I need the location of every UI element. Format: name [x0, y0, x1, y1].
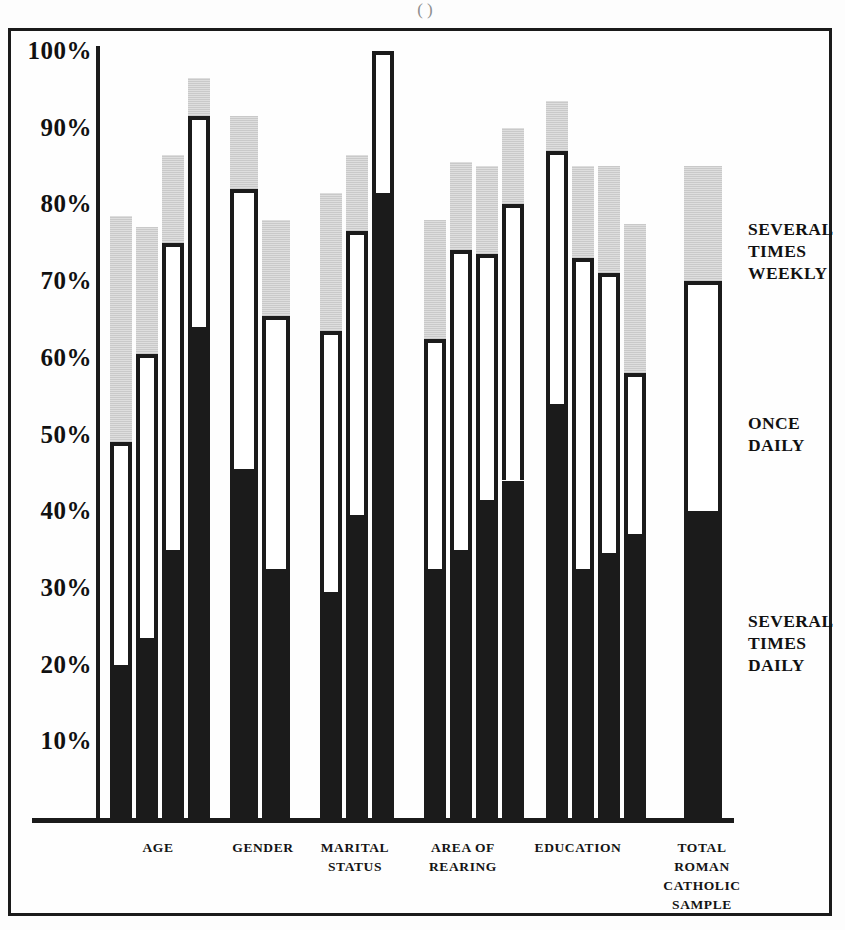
- bar-segment-once-daily: [546, 151, 568, 404]
- y-tick-label: 80%: [6, 191, 92, 216]
- legend-item-several-times-weekly: SEVERALTIMESWEEKLY: [748, 218, 833, 284]
- bar-segment-several-times-weekly: [546, 101, 568, 151]
- group-label-line: EDUCATION: [518, 838, 638, 857]
- y-tick-label: 60%: [6, 345, 92, 370]
- y-tick-label: 30%: [6, 575, 92, 600]
- bar-segment-several-times-weekly: [424, 220, 446, 339]
- bar-segment-several-times-weekly: [230, 116, 258, 189]
- y-tick-label: 70%: [6, 268, 92, 293]
- legend-item-several-times-daily: SEVERALTIMESDAILY: [748, 610, 833, 676]
- y-tick-label: 100%: [6, 38, 92, 63]
- bar-segment-several-times-weekly: [502, 128, 524, 205]
- y-tick-label: 90%: [6, 115, 92, 140]
- bar-segment-once-daily: [188, 116, 210, 327]
- bar-segment-several-times-weekly: [188, 78, 210, 116]
- bar-segment-several-times-daily: [110, 665, 132, 818]
- x-axis-line: [32, 818, 734, 823]
- legend-label-line: SEVERAL: [748, 610, 833, 632]
- stacked-bar: [110, 216, 132, 818]
- legend-label-line: DAILY: [748, 654, 833, 676]
- group-label-line: AREA OF: [408, 838, 518, 857]
- bar-segment-several-times-daily: [188, 327, 210, 818]
- bar-segment-once-daily: [110, 442, 132, 664]
- bar-segment-several-times-weekly: [346, 155, 368, 232]
- group-label-line: ROMAN: [652, 857, 752, 876]
- bar-segment-several-times-weekly: [598, 166, 620, 273]
- group-label-line: REARING: [408, 857, 518, 876]
- bar-segment-several-times-daily: [262, 569, 290, 818]
- stacked-bar: [546, 101, 568, 818]
- legend-label-line: WEEKLY: [748, 262, 833, 284]
- bar-segment-several-times-daily: [546, 404, 568, 818]
- bar-segment-several-times-daily: [136, 638, 158, 818]
- stacked-bar: [136, 227, 158, 818]
- bar-segment-several-times-weekly: [162, 155, 184, 243]
- bar-segment-once-daily: [230, 189, 258, 469]
- bar-segment-once-daily: [624, 373, 646, 534]
- y-tick-label: 20%: [6, 652, 92, 677]
- bar-segment-once-daily: [346, 231, 368, 515]
- stacked-bar: [450, 162, 472, 818]
- group-label-line: TOTAL: [652, 838, 752, 857]
- group-label-education: EDUCATION: [518, 838, 638, 857]
- bar-segment-several-times-daily: [684, 511, 722, 818]
- bar-segment-once-daily: [450, 250, 472, 549]
- bar-segment-several-times-weekly: [320, 193, 342, 331]
- bar-segment-several-times-daily: [624, 534, 646, 818]
- bar-segment-once-daily: [136, 354, 158, 638]
- y-tick-label: 10%: [6, 728, 92, 753]
- bar-segment-once-daily: [598, 273, 620, 553]
- stacked-bar: [502, 128, 524, 818]
- bar-segment-several-times-daily: [450, 550, 472, 818]
- stacked-bar: [262, 220, 290, 818]
- legend-item-once-daily: ONCEDAILY: [748, 412, 805, 456]
- stacked-bar: [424, 220, 446, 818]
- group-label-line: MARITAL: [300, 838, 410, 857]
- legend-label-line: SEVERAL: [748, 218, 833, 240]
- stacked-bar: [320, 193, 342, 818]
- group-label-age: AGE: [108, 838, 208, 857]
- group-label-total-roman-catholic-sample: TOTALROMANCATHOLICSAMPLE: [652, 838, 752, 914]
- chart-page: ( ) 100%90%80%70%60%50%40%30%20%10% AGEG…: [0, 0, 845, 930]
- stacked-bar: [476, 166, 498, 818]
- group-label-line: SAMPLE: [652, 895, 752, 914]
- bar-segment-several-times-weekly: [572, 166, 594, 258]
- bar-segment-several-times-daily: [572, 569, 594, 818]
- legend-label-line: TIMES: [748, 632, 833, 654]
- bar-segment-once-daily: [162, 243, 184, 550]
- bar-segment-several-times-weekly: [684, 166, 722, 281]
- group-label-line: STATUS: [300, 857, 410, 876]
- y-axis-tick-labels: 100%90%80%70%60%50%40%30%20%10%: [0, 0, 92, 930]
- stacked-bar: [188, 78, 210, 818]
- stacked-bar: [572, 166, 594, 818]
- stacked-bar: [598, 166, 620, 818]
- bar-segment-several-times-weekly: [136, 227, 158, 354]
- bar-segment-several-times-daily: [502, 481, 524, 818]
- bar-segment-once-daily: [262, 316, 290, 569]
- group-label-line: CATHOLIC: [652, 876, 752, 895]
- stacked-bar: [346, 155, 368, 818]
- bar-segment-several-times-daily: [230, 469, 258, 818]
- bar-segment-once-daily: [502, 204, 524, 480]
- bar-segment-several-times-daily: [598, 553, 620, 818]
- bar-segment-once-daily: [372, 51, 394, 193]
- bar-segment-several-times-daily: [424, 569, 446, 818]
- bar-segment-once-daily: [684, 281, 722, 511]
- legend-label-line: DAILY: [748, 434, 805, 456]
- y-tick-label: 50%: [6, 422, 92, 447]
- bar-segment-several-times-daily: [162, 550, 184, 818]
- stacked-bar: [230, 116, 258, 818]
- legend-label-line: ONCE: [748, 412, 805, 434]
- y-axis-line: [96, 46, 100, 818]
- stacked-bar: [624, 224, 646, 818]
- bar-segment-several-times-daily: [372, 193, 394, 818]
- bar-segment-several-times-daily: [476, 500, 498, 818]
- stacked-bar: [372, 51, 394, 818]
- bar-segment-several-times-daily: [346, 515, 368, 818]
- bar-segment-once-daily: [320, 331, 342, 592]
- y-tick-label: 40%: [6, 498, 92, 523]
- stacked-bar: [162, 155, 184, 818]
- bar-segment-once-daily: [424, 339, 446, 569]
- bar-segment-several-times-weekly: [262, 220, 290, 316]
- bar-segment-once-daily: [476, 254, 498, 499]
